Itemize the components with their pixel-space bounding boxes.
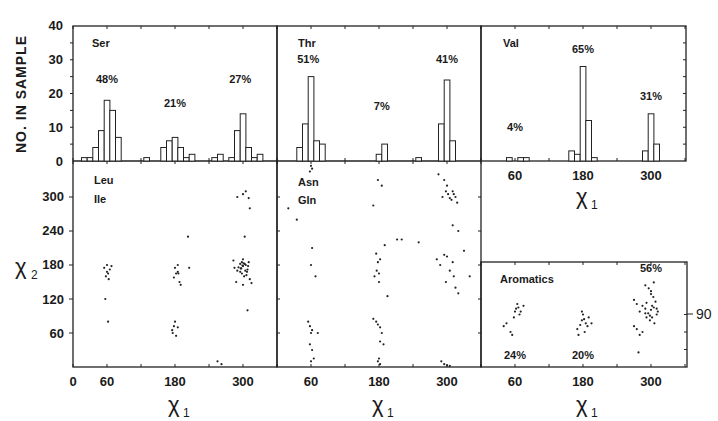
scatter-point bbox=[233, 267, 235, 269]
svg-text:1: 1 bbox=[387, 406, 394, 420]
scatter-point bbox=[590, 322, 592, 324]
scatter-point bbox=[517, 306, 519, 308]
scatter-point bbox=[311, 168, 313, 170]
scatter-point bbox=[581, 311, 583, 313]
scatter-point bbox=[653, 322, 655, 324]
scatter-point bbox=[378, 357, 380, 359]
scatter-point bbox=[310, 264, 312, 266]
svg-text:0: 0 bbox=[69, 374, 76, 389]
svg-text:300: 300 bbox=[436, 374, 458, 389]
histogram-bar bbox=[320, 144, 326, 161]
scatter-point bbox=[443, 254, 445, 256]
histogram-bar bbox=[184, 158, 190, 161]
svg-text:1: 1 bbox=[183, 406, 190, 420]
scatter-point bbox=[513, 316, 515, 318]
scatter-point bbox=[376, 270, 378, 272]
svg-text:2: 2 bbox=[31, 268, 38, 282]
scatter-point bbox=[241, 272, 243, 274]
scatter-point bbox=[188, 267, 190, 269]
scatter-point bbox=[250, 282, 252, 284]
scatter-point bbox=[375, 321, 377, 323]
svg-text:χ: χ bbox=[372, 392, 384, 417]
scatter-y-tick: 60 bbox=[50, 326, 64, 341]
scatter-point bbox=[240, 267, 242, 269]
scatter-point bbox=[650, 309, 652, 311]
scatter-point bbox=[382, 343, 384, 345]
scatter-point bbox=[177, 272, 179, 274]
scatter-point bbox=[307, 321, 309, 323]
percent-annotation: 31% bbox=[640, 90, 662, 102]
scatter-point bbox=[644, 308, 646, 310]
scatter-point bbox=[641, 305, 643, 307]
histogram-bar bbox=[172, 137, 178, 161]
histogram-bar bbox=[518, 158, 524, 161]
scatter-point bbox=[579, 324, 581, 326]
svg-text:180: 180 bbox=[164, 374, 186, 389]
scatter-point bbox=[372, 318, 374, 320]
panel-frames bbox=[73, 26, 687, 367]
histogram-bar bbox=[450, 141, 456, 161]
scatter-point bbox=[645, 316, 647, 318]
scatter-point bbox=[639, 334, 641, 336]
scatter-point bbox=[310, 165, 312, 167]
x-ticks-right-bottom: 60 180 300 bbox=[508, 374, 662, 389]
panel-title-leu: Leu bbox=[94, 174, 114, 186]
percent-annotation: 27% bbox=[229, 73, 251, 85]
scatter-point bbox=[656, 313, 658, 315]
scatter-point bbox=[377, 179, 379, 181]
scatter-point bbox=[239, 271, 241, 273]
scatter-point bbox=[653, 281, 655, 283]
scatter-point bbox=[386, 295, 388, 297]
scatter-point bbox=[110, 265, 112, 267]
scatter-point bbox=[577, 334, 579, 336]
scatter-point bbox=[453, 275, 455, 277]
scatter-point bbox=[235, 281, 237, 283]
scatter-y-tick: 300 bbox=[42, 189, 64, 204]
scatter-y-tick: 180 bbox=[42, 257, 64, 272]
histogram-bar bbox=[580, 67, 586, 162]
hist-y-axis-label: NO. IN SAMPLE bbox=[13, 35, 29, 153]
hist-y-tick: 30 bbox=[49, 52, 63, 67]
panel-title-asn: Asn bbox=[298, 176, 319, 188]
percent-annotation: 51% bbox=[297, 53, 319, 65]
svg-text:300: 300 bbox=[640, 374, 662, 389]
scatter-point bbox=[104, 298, 106, 300]
chi1-axis-label-middle: χ 1 bbox=[372, 392, 394, 420]
histogram-bar bbox=[257, 154, 263, 161]
x-ticks-middle: 60 180 300 bbox=[304, 374, 458, 389]
panel-title-aromatics: Aromatics bbox=[500, 273, 554, 285]
scatter-point bbox=[463, 250, 465, 252]
scatter-point bbox=[441, 196, 443, 198]
scatter-point bbox=[446, 255, 448, 257]
scatter-point bbox=[178, 281, 180, 283]
svg-text:300: 300 bbox=[232, 374, 254, 389]
histogram-bar bbox=[376, 154, 382, 161]
scatter-point bbox=[636, 328, 638, 330]
scatter-point bbox=[105, 275, 107, 277]
scatter-point bbox=[246, 309, 248, 311]
panel-title-ser: Ser bbox=[92, 37, 110, 49]
scatter-point bbox=[641, 331, 643, 333]
histogram-bar bbox=[246, 148, 252, 162]
scatter-point bbox=[581, 319, 583, 321]
histogram-bar bbox=[303, 124, 309, 161]
scatter-point bbox=[177, 326, 179, 328]
hist-y-tick: 10 bbox=[49, 120, 63, 135]
histogram-bar bbox=[82, 158, 88, 161]
scatter-point bbox=[456, 202, 458, 204]
scatter-point bbox=[505, 322, 507, 324]
scatter-point bbox=[245, 274, 247, 276]
scatter-point bbox=[518, 313, 520, 315]
scatter-point bbox=[511, 334, 513, 336]
histogram-bar bbox=[104, 100, 110, 161]
hist-y-ticks: 40 30 20 10 0 bbox=[49, 18, 63, 169]
scatter-point bbox=[636, 303, 638, 305]
scatter-point bbox=[249, 207, 251, 209]
scatter-y-tick: 120 bbox=[42, 292, 64, 307]
scatter-point bbox=[174, 321, 176, 323]
histogram-bar bbox=[252, 158, 258, 161]
histogram-bar bbox=[314, 141, 320, 161]
scatter-point bbox=[177, 264, 179, 266]
scatter-point bbox=[239, 263, 241, 265]
histogram-bar bbox=[93, 148, 99, 162]
